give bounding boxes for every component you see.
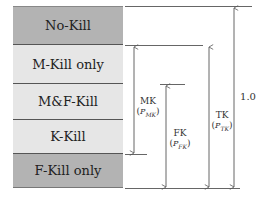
mk-label: MK (PMK) bbox=[136, 96, 160, 120]
tk-label: TK (PTK) bbox=[210, 110, 234, 134]
measure-arrows bbox=[0, 0, 258, 197]
total-label: 1.0 bbox=[240, 92, 256, 102]
fk-label: FK (PFK) bbox=[168, 128, 192, 152]
